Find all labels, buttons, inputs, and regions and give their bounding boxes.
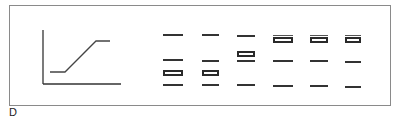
boxed-band [163, 70, 183, 76]
band [237, 60, 255, 62]
schematic-graph [0, 0, 395, 119]
band [202, 60, 219, 62]
step-curve [50, 41, 110, 72]
band [202, 84, 219, 86]
band-top-line [273, 35, 293, 36]
band [237, 35, 255, 37]
panel-label: D [9, 106, 17, 118]
boxed-band [310, 37, 328, 43]
band-top-line [310, 35, 328, 36]
boxed-band [202, 70, 219, 76]
band [345, 61, 361, 63]
boxed-band [273, 37, 293, 43]
boxed-band [345, 37, 361, 43]
band [163, 84, 183, 86]
band [237, 84, 255, 86]
band [163, 34, 183, 36]
boxed-band [237, 51, 255, 57]
band [273, 85, 293, 87]
band [163, 59, 183, 61]
band-top-line [345, 35, 361, 36]
band [310, 60, 328, 62]
band [273, 60, 293, 62]
band [202, 34, 219, 36]
band [345, 86, 361, 88]
band [310, 85, 328, 87]
